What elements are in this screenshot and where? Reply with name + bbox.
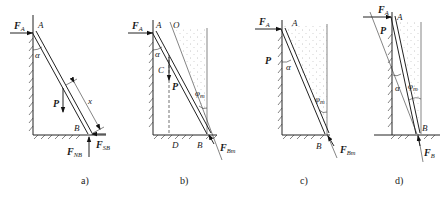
caption-d: d): [395, 175, 403, 187]
weight-label: P: [380, 25, 387, 36]
weight-label: P: [265, 55, 272, 66]
wall-hatching: [149, 42, 153, 127]
ladder: [32, 31, 92, 134]
floor-hatching: [34, 135, 80, 139]
angle-alpha-label: α: [155, 49, 160, 59]
force-B-label: FBm: [219, 142, 236, 154]
wall-hatching: [388, 34, 392, 127]
weight-label: P: [172, 81, 179, 92]
friction-cone-region: [283, 26, 327, 132]
point-A-label: A: [396, 12, 403, 22]
point-A-label: A: [37, 20, 44, 30]
angle-alpha-label: α: [286, 62, 291, 72]
force-B-label: FBm: [339, 144, 356, 156]
wall-hatching: [29, 38, 33, 131]
panel-b: α φm P C O A D B FA FBm b): [128, 20, 236, 187]
ladder-friction-figure: α x P FA A B FSB FNB a): [0, 0, 445, 201]
point-O-label: O: [173, 20, 180, 30]
floor-hatching: [154, 135, 217, 139]
angle-alpha-label: α: [35, 50, 40, 60]
caption-c: c): [300, 175, 308, 187]
panel-c: α φm P FA A B FBm c): [255, 16, 356, 187]
caption-b: b): [180, 175, 188, 187]
normal-B-label: FNB: [66, 146, 82, 158]
distance-dimension: x: [66, 79, 104, 133]
point-B-label: B: [422, 123, 428, 133]
friction-B-label: FSB: [95, 139, 110, 151]
friction-cone-region: [398, 20, 421, 134]
force-B-label: FB: [423, 147, 435, 159]
point-C-label: C: [158, 65, 165, 75]
floor-hatching: [391, 135, 435, 139]
distance-label: x: [87, 96, 92, 106]
wall-hatching: [278, 36, 282, 129]
angle-alpha-label: α: [395, 83, 400, 93]
point-B-label: B: [74, 123, 80, 133]
force-A-label: FA: [258, 16, 270, 28]
caption-a: a): [81, 175, 89, 187]
force-A-label: FA: [13, 20, 25, 32]
force-A-label: FA: [377, 4, 389, 16]
floor-hatching: [283, 135, 324, 139]
force-B-arrow: [418, 136, 420, 146]
panel-a: α x P FA A B FSB FNB a): [10, 15, 110, 187]
point-A-label: A: [155, 20, 162, 30]
force-B-arrow: [328, 136, 334, 146]
force-A-label: FA: [131, 20, 143, 32]
panel-d: α φm P FA A B FB d): [363, 4, 440, 187]
point-D-label: D: [171, 140, 179, 150]
weight-label: P: [53, 98, 60, 109]
point-B-label: B: [316, 141, 322, 151]
point-B-label: B: [197, 140, 203, 150]
point-A-label: A: [291, 18, 298, 28]
